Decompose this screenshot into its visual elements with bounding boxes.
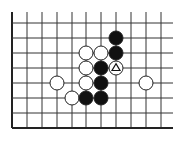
black-stone <box>94 61 108 75</box>
white-stone <box>65 91 79 105</box>
white-stone <box>139 76 153 90</box>
black-stone <box>94 76 108 90</box>
black-stone <box>109 46 123 60</box>
go-board <box>0 0 185 143</box>
white-stone <box>79 61 93 75</box>
white-stone <box>79 46 93 60</box>
black-stone <box>79 91 93 105</box>
white-stone <box>79 76 93 90</box>
white-stone <box>50 76 64 90</box>
white-stone <box>94 46 108 60</box>
black-stone <box>109 31 123 45</box>
black-stone <box>94 91 108 105</box>
